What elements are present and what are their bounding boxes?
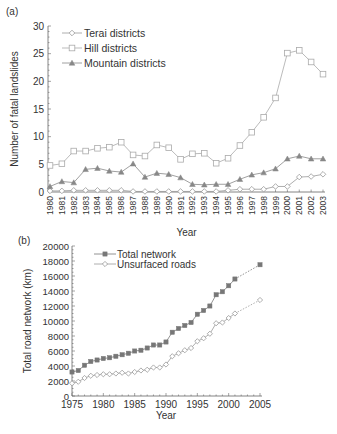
marker-diamond-icon xyxy=(237,186,243,192)
x-tick-label: 1998 xyxy=(259,196,269,215)
x-tick-label: 1999 xyxy=(271,196,281,215)
marker-diamond-icon xyxy=(157,365,162,370)
marker-diamond-icon xyxy=(82,375,87,380)
x-tick-label: 1994 xyxy=(211,196,221,215)
marker-diamond-icon xyxy=(201,336,206,341)
marker-square-icon xyxy=(233,277,237,281)
marker-square-icon xyxy=(120,353,124,357)
marker-square-icon xyxy=(130,152,136,158)
y-tick-label: 10000 xyxy=(43,316,69,327)
marker-square-icon xyxy=(142,153,148,159)
series-terai-districts xyxy=(47,171,326,194)
x-tick-label: 1985 xyxy=(124,399,147,410)
y-tick-label: 16000 xyxy=(43,271,69,282)
x-tick-label: 2000 xyxy=(282,196,292,215)
marker-square-icon xyxy=(82,363,86,367)
marker-diamond-icon xyxy=(261,186,267,192)
figure: (a) 051015202530198019811982198319841985… xyxy=(0,0,337,434)
marker-square-icon xyxy=(170,330,174,334)
marker-diamond-icon xyxy=(190,189,196,195)
marker-diamond-icon xyxy=(145,367,150,372)
x-tick-label: 1995 xyxy=(186,399,209,410)
x-tick-label: 1989 xyxy=(152,196,162,215)
marker-square-icon xyxy=(107,144,113,150)
x-tick-label: 1975 xyxy=(61,399,84,410)
marker-square-icon xyxy=(208,304,212,308)
legend-label: Hill districts xyxy=(84,42,137,54)
y-tick-label: 0 xyxy=(38,187,44,198)
marker-square-icon xyxy=(195,312,199,316)
marker-square-icon xyxy=(71,148,77,154)
marker-square-icon xyxy=(158,343,162,347)
marker-diamond-icon xyxy=(120,370,125,375)
y-tick-label: 10 xyxy=(33,131,45,142)
marker-square-icon xyxy=(76,368,80,372)
marker-square-icon xyxy=(261,115,267,121)
marker-diamond-icon xyxy=(126,371,131,376)
marker-square-icon xyxy=(202,150,208,156)
marker-triangle-icon xyxy=(95,165,101,170)
marker-square-icon xyxy=(47,163,53,169)
y-tick-label: 25 xyxy=(33,48,45,59)
marker-square-icon xyxy=(202,308,206,312)
x-tick-label: 1997 xyxy=(247,196,257,215)
x-tick-label: 1986 xyxy=(116,196,126,215)
marker-triangle-icon xyxy=(154,170,160,175)
marker-triangle-icon xyxy=(237,176,243,181)
marker-diamond-icon xyxy=(69,30,75,36)
marker-square-icon xyxy=(69,45,75,51)
marker-triangle-icon xyxy=(59,179,65,184)
marker-diamond-icon xyxy=(101,372,106,377)
legend-label: Terai districts xyxy=(84,27,145,39)
marker-square-icon xyxy=(237,143,243,149)
marker-diamond-icon xyxy=(182,348,187,353)
marker-diamond-icon xyxy=(257,297,262,302)
marker-square-icon xyxy=(258,263,262,267)
marker-square-icon xyxy=(114,354,118,358)
y-tick-label: 5 xyxy=(38,159,44,170)
marker-square-icon xyxy=(273,95,279,101)
marker-diamond-icon xyxy=(320,171,326,177)
marker-square-icon xyxy=(133,349,137,353)
y-axis-label: Total road network (km) xyxy=(22,269,33,373)
marker-diamond-icon xyxy=(154,189,160,195)
marker-square-icon xyxy=(59,161,65,167)
marker-square-icon xyxy=(296,48,302,54)
marker-square-icon xyxy=(225,155,231,161)
series-total-network xyxy=(70,263,262,374)
x-axis-label: Year xyxy=(156,410,177,421)
marker-diamond-icon xyxy=(220,320,225,325)
chart-b: 0200040006000800010000120001400016000180… xyxy=(22,241,272,422)
x-tick-label: 1980 xyxy=(92,399,115,410)
marker-square-icon xyxy=(83,148,89,154)
x-tick-label: 1985 xyxy=(104,196,114,215)
marker-square-icon xyxy=(178,157,184,163)
marker-triangle-icon xyxy=(130,161,136,166)
marker-square-icon xyxy=(151,343,155,347)
x-tick-label: 1995 xyxy=(223,196,233,215)
legend: Terai districtsHill districtsMountain di… xyxy=(62,27,166,69)
x-tick-label: 1993 xyxy=(199,196,209,215)
x-tick-label: 2002 xyxy=(306,196,316,215)
marker-square-icon xyxy=(308,59,314,65)
marker-square-icon xyxy=(89,359,93,363)
x-tick-label: 1982 xyxy=(69,196,79,215)
marker-square-icon xyxy=(183,323,187,327)
marker-diamond-icon xyxy=(130,189,136,195)
marker-square-icon xyxy=(95,358,99,362)
x-tick-label: 2001 xyxy=(294,196,304,215)
marker-diamond-icon xyxy=(232,311,237,316)
marker-diamond-icon xyxy=(202,189,208,195)
marker-square-icon xyxy=(190,151,196,157)
marker-diamond-icon xyxy=(138,368,143,373)
marker-triangle-icon xyxy=(296,153,302,158)
marker-square-icon xyxy=(103,252,107,256)
marker-diamond-icon xyxy=(142,189,148,195)
y-tick-label: 12000 xyxy=(43,301,69,312)
marker-diamond-icon xyxy=(166,189,172,195)
marker-square-icon xyxy=(249,129,255,135)
marker-diamond-icon xyxy=(207,331,212,336)
y-tick-label: 20 xyxy=(33,76,45,87)
marker-diamond-icon xyxy=(132,369,137,374)
marker-square-icon xyxy=(126,351,130,355)
